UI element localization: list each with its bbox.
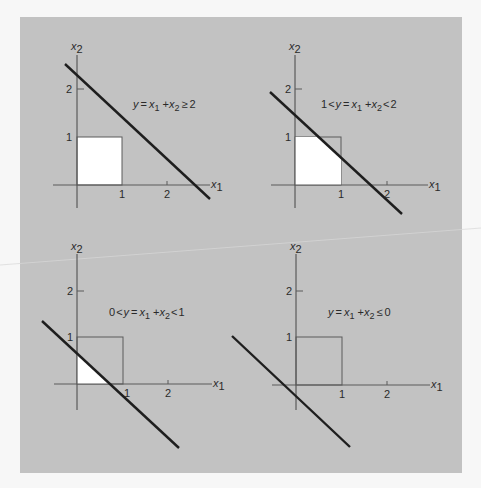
- x-tick-label-1: 1: [339, 388, 345, 400]
- y-tick-label-1: 1: [285, 131, 291, 143]
- x-tick-label-2: 2: [384, 388, 390, 400]
- y-tick-label-2: 2: [67, 285, 73, 297]
- x-tick-label-2: 2: [164, 188, 170, 200]
- y-tick-label-1: 1: [66, 131, 72, 143]
- x-tick-label-1: 1: [119, 188, 125, 200]
- y-tick-label-1: 1: [67, 331, 73, 343]
- figure: x2 x1 1 2 1 2 y=x1+x2≥2 x2 x1 1 2 1 2 1<…: [0, 0, 481, 488]
- unit-square: [296, 337, 342, 385]
- y-tick-label-2: 2: [285, 83, 291, 95]
- x-tick-label-1: 1: [124, 387, 130, 399]
- x-tick-label-2: 2: [384, 188, 390, 200]
- x-tick-label-1: 1: [338, 188, 344, 200]
- y-tick-label-1: 1: [286, 331, 292, 343]
- unit-square: [77, 137, 122, 185]
- y-tick-label-2: 2: [286, 285, 292, 297]
- x-tick-label-2: 2: [165, 387, 171, 399]
- y-tick-label-2: 2: [66, 83, 72, 95]
